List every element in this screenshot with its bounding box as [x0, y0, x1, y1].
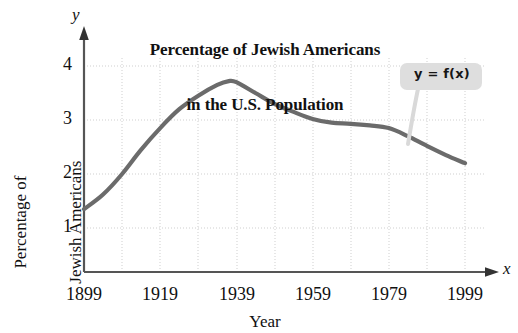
- x-tick-label-1999: 1999: [435, 285, 495, 304]
- x-tick-label-1979: 1979: [359, 285, 419, 304]
- x-axis-line: [84, 267, 499, 277]
- x-tick-label-1939: 1939: [207, 285, 267, 304]
- chart-title: Percentage of Jewish Americans in the U.…: [110, 4, 420, 151]
- chart-title-line-2: in the U.S. Population: [110, 96, 420, 114]
- y-axis-title-line-2: Jewish Americans: [66, 127, 85, 317]
- y-axis-title: Percentage of Jewish Americans: [0, 127, 122, 317]
- x-tick-label-1959: 1959: [283, 285, 343, 304]
- y-tick-label-4: 4: [46, 55, 72, 74]
- y-tick-label-3: 3: [46, 109, 72, 128]
- x-axis-title: Year: [190, 313, 340, 331]
- x-tick-label-1919: 1919: [130, 285, 190, 304]
- y-axis-variable-label: y: [72, 6, 80, 24]
- function-annotation-label: y = f(x): [404, 66, 480, 81]
- x-axis-variable-label: x: [503, 260, 511, 278]
- chart-figure: Percentage of Jewish Americans in the U.…: [0, 0, 518, 333]
- chart-title-line-1: Percentage of Jewish Americans: [110, 41, 420, 59]
- y-axis-title-line-1: Percentage of: [11, 127, 30, 317]
